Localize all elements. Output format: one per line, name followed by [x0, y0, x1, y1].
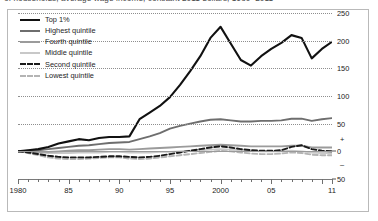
legend-item[interactable]: Lowest quintile — [20, 70, 96, 81]
x-tick-mark — [18, 179, 19, 184]
x-tick-label: 05 — [267, 186, 275, 195]
figure-title-text: of households, average wage income, cons… — [4, 0, 273, 3]
x-tick-mark — [200, 179, 201, 182]
legend-label: Fourth quintile — [45, 38, 92, 45]
legend-label: Top 1% — [45, 16, 70, 23]
x-tick-mark — [140, 179, 141, 182]
x-tick-mark — [129, 179, 130, 182]
x-tick-mark — [28, 179, 29, 182]
x-tick-label: 85 — [64, 186, 72, 195]
x-tick-mark — [79, 179, 80, 182]
x-tick-mark — [69, 179, 70, 184]
x-tick-mark — [241, 179, 242, 182]
x-tick-mark — [59, 179, 60, 182]
x-tick-label: 95 — [166, 186, 174, 195]
legend-swatch-icon — [20, 63, 40, 65]
x-tick-mark — [322, 179, 323, 184]
x-tick-mark — [89, 179, 90, 182]
legend-label: Highest quintile — [45, 27, 96, 34]
y-tick-label: 50 — [337, 175, 345, 184]
gridline-100 — [18, 96, 332, 97]
y-tick-label: 200 — [337, 36, 349, 45]
x-tick-mark — [38, 179, 39, 182]
legend-swatch-icon — [20, 75, 40, 77]
x-tick-mark — [180, 179, 181, 182]
legend-item[interactable]: Middle quintile — [20, 48, 96, 59]
x-tick-mark — [292, 179, 293, 182]
x-tick-mark — [119, 179, 120, 184]
x-tick-mark — [170, 179, 171, 184]
x-tick-mark — [281, 179, 282, 182]
x-tick-mark — [251, 179, 252, 182]
legend-swatch-icon — [20, 30, 40, 32]
y-tick-label: 150 — [337, 64, 349, 73]
legend: Top 1%Highest quintileFourth quintileMid… — [20, 14, 96, 81]
y-tick-label: 50 — [337, 119, 345, 128]
x-tick-mark — [231, 179, 232, 182]
y-axis-plus-sign: + — [340, 135, 344, 144]
x-tick-label: 2000 — [212, 186, 229, 195]
gridline-50 — [18, 124, 332, 125]
legend-item[interactable]: Fourth quintile — [20, 36, 96, 47]
legend-label: Lowest quintile — [45, 72, 94, 79]
x-tick-mark — [48, 179, 49, 182]
legend-swatch-icon — [20, 19, 40, 21]
x-axis-line — [18, 179, 332, 180]
x-tick-label: 1980 — [10, 186, 27, 195]
y-tick-label: 100 — [337, 92, 349, 101]
legend-swatch-icon — [20, 41, 40, 43]
gridline-0 — [18, 151, 332, 152]
x-tick-mark — [271, 179, 272, 184]
legend-label: Middle quintile — [45, 49, 92, 56]
figure-title-clipped: of households, average wage income, cons… — [0, 0, 378, 7]
y-tick-label: 250 — [337, 9, 349, 18]
legend-item[interactable]: Second quintile — [20, 59, 96, 70]
y-tick-label: 0 — [337, 147, 341, 156]
x-tick-mark — [190, 179, 191, 182]
x-tick-mark — [312, 179, 313, 182]
x-tick-mark — [302, 179, 303, 182]
legend-label: Second quintile — [45, 61, 96, 68]
legend-item[interactable]: Top 1% — [20, 14, 96, 25]
legend-swatch-icon — [20, 52, 40, 54]
x-tick-label: 90 — [115, 186, 123, 195]
x-tick-mark — [150, 179, 151, 182]
x-tick-mark — [261, 179, 262, 182]
y-tick-mark — [332, 151, 336, 152]
x-tick-mark — [99, 179, 100, 182]
x-tick-mark — [160, 179, 161, 182]
x-tick-mark — [211, 179, 212, 182]
x-tick-mark — [221, 179, 222, 184]
y-axis-minus-sign: – — [340, 159, 344, 168]
legend-item[interactable]: Highest quintile — [20, 25, 96, 36]
x-tick-mark — [109, 179, 110, 182]
x-tick-mark — [332, 179, 333, 184]
x-tick-label: 11 — [328, 186, 336, 195]
chart-figure: of households, average wage income, cons… — [0, 0, 378, 221]
